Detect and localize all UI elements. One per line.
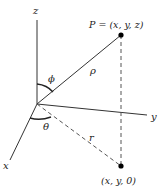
x-axis-label: x: [3, 160, 9, 171]
y-axis: [37, 104, 147, 115]
theta-label: θ: [43, 121, 49, 132]
point-P: [118, 32, 123, 37]
spherical-coordinates-diagram: z y x P = (x, y, z) (x, y, 0) ρ r ϕ θ: [0, 0, 164, 190]
x-axis: [10, 104, 37, 160]
rho-label: ρ: [89, 65, 96, 76]
rho-segment: [37, 35, 121, 104]
phi-label: ϕ: [48, 73, 55, 84]
theta-angle-arc: [30, 117, 51, 119]
point-projection: [118, 163, 123, 168]
z-axis-label: z: [32, 5, 39, 16]
y-axis-label: y: [150, 111, 157, 122]
projection-point-label: (x, y, 0): [101, 175, 136, 186]
phi-angle-arc: [37, 84, 53, 92]
r-dashed-segment: [37, 104, 121, 166]
point-P-label: P = (x, y, z): [88, 19, 144, 30]
r-label: r: [89, 132, 95, 143]
